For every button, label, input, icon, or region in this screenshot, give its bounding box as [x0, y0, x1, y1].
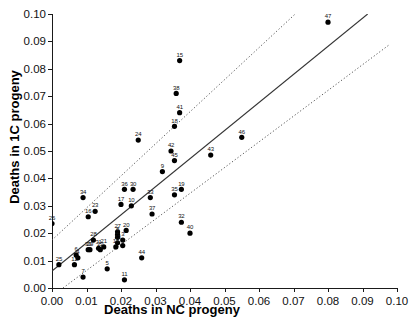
data-point-label: 38: [173, 85, 179, 91]
data-point: [179, 220, 184, 225]
y-axis-title-wrap: Deaths in 1C progeny: [14, 0, 15, 274]
x-tick-label: 0.10: [386, 295, 408, 307]
data-point-label: 41: [177, 104, 183, 110]
data-markers: [52, 20, 331, 283]
data-point-label: 20: [123, 222, 129, 228]
data-point: [56, 262, 61, 267]
data-point: [136, 137, 141, 142]
regression-line: [52, 14, 368, 271]
data-point-label: 45: [171, 152, 177, 158]
data-point-label: 35: [171, 186, 177, 192]
data-point: [86, 247, 91, 252]
data-point-label: 27: [114, 223, 120, 229]
regression-fit-line: [52, 14, 368, 271]
data-point-label: 6: [75, 246, 78, 252]
y-tick-label: 0.05: [24, 145, 46, 157]
data-point-label: 10: [128, 197, 134, 203]
x-tick-label: 0.06: [248, 295, 270, 307]
data-point-label: 30: [130, 181, 136, 187]
data-point: [93, 209, 98, 214]
data-point: [148, 195, 153, 200]
x-tick-label: 0.00: [41, 295, 63, 307]
data-point-label: 11: [122, 271, 128, 277]
confidence-band-lower: [63, 44, 390, 288]
data-point-label: 31: [95, 239, 101, 245]
data-point-label: 42: [168, 142, 174, 148]
data-point: [160, 169, 165, 174]
y-tick-label: 0.09: [24, 35, 46, 47]
data-point-label: 34: [80, 189, 86, 195]
data-point: [172, 158, 177, 163]
x-tick-mark: [87, 288, 88, 292]
data-point-label: 12: [71, 256, 77, 262]
data-point: [177, 110, 182, 115]
x-tick-mark: [52, 288, 53, 292]
x-tick-mark: [190, 288, 191, 292]
x-tick-label: 0.04: [179, 295, 201, 307]
x-tick-mark: [121, 288, 122, 292]
data-point: [124, 228, 129, 233]
data-point: [130, 187, 135, 192]
x-tick-mark: [397, 288, 398, 292]
data-point: [122, 187, 127, 192]
x-tick-mark: [294, 288, 295, 292]
data-point: [139, 255, 144, 260]
y-tick-label: 0.07: [24, 90, 46, 102]
data-point-label: 5: [106, 260, 109, 266]
data-point-label: 44: [139, 249, 145, 255]
y-tick-label: 0.01: [24, 255, 46, 267]
y-tick-label: 0.03: [24, 200, 46, 212]
x-tick-mark: [259, 288, 260, 292]
data-point-label: 15: [177, 52, 183, 58]
data-point-label: 16: [85, 208, 91, 214]
data-point: [122, 277, 127, 282]
data-point-label: 40: [187, 224, 193, 230]
data-point: [80, 195, 85, 200]
x-tick-label: 0.09: [351, 295, 373, 307]
data-point-label: 43: [208, 146, 214, 152]
y-tick-label: 0.00: [24, 282, 46, 294]
data-point-label: 3: [121, 231, 124, 237]
data-point: [113, 244, 118, 249]
data-point-label: 37: [149, 205, 155, 211]
data-point: [105, 266, 110, 271]
data-point-label: 47: [325, 13, 331, 19]
data-point-label: 39: [85, 241, 91, 247]
data-point: [149, 211, 154, 216]
y-tick-label: 0.06: [24, 118, 46, 130]
data-point-label: 18: [171, 118, 177, 124]
x-tick-mark: [328, 288, 329, 292]
data-point-label: 17: [118, 196, 124, 202]
y-tick-label: 0.02: [24, 227, 46, 239]
data-layer: [52, 14, 397, 288]
data-point-label: 46: [239, 129, 245, 135]
data-point-label: 25: [56, 256, 62, 262]
x-tick-mark: [225, 288, 226, 292]
x-tick-label: 0.01: [75, 295, 97, 307]
data-point: [325, 20, 330, 25]
data-point-label: 36: [121, 181, 127, 187]
data-point: [52, 221, 55, 226]
data-point-label: 28: [90, 231, 96, 237]
data-point: [239, 135, 244, 140]
data-point: [172, 192, 177, 197]
y-tick-label: 0.04: [24, 172, 46, 184]
y-axis-title: Deaths in 1C progeny: [7, 70, 22, 204]
data-point-label: 33: [147, 189, 153, 195]
data-point-label: 14: [113, 238, 119, 244]
data-point-label: 23: [92, 202, 98, 208]
y-tick-label: 0.08: [24, 63, 46, 75]
plot-area: 0.000.010.020.030.040.050.060.070.080.09…: [52, 14, 397, 288]
y-tick-label: 0.10: [24, 8, 46, 20]
data-point: [179, 187, 184, 192]
data-point: [118, 202, 123, 207]
data-point-label: 24: [135, 131, 141, 137]
data-point-label: 9: [161, 163, 164, 169]
data-point: [80, 274, 85, 279]
x-tick-label: 0.08: [317, 295, 339, 307]
x-tick-label: 0.02: [110, 295, 132, 307]
data-point-label: 26: [49, 215, 55, 221]
x-tick-mark: [156, 288, 157, 292]
data-point: [72, 262, 77, 267]
data-point: [120, 243, 125, 248]
